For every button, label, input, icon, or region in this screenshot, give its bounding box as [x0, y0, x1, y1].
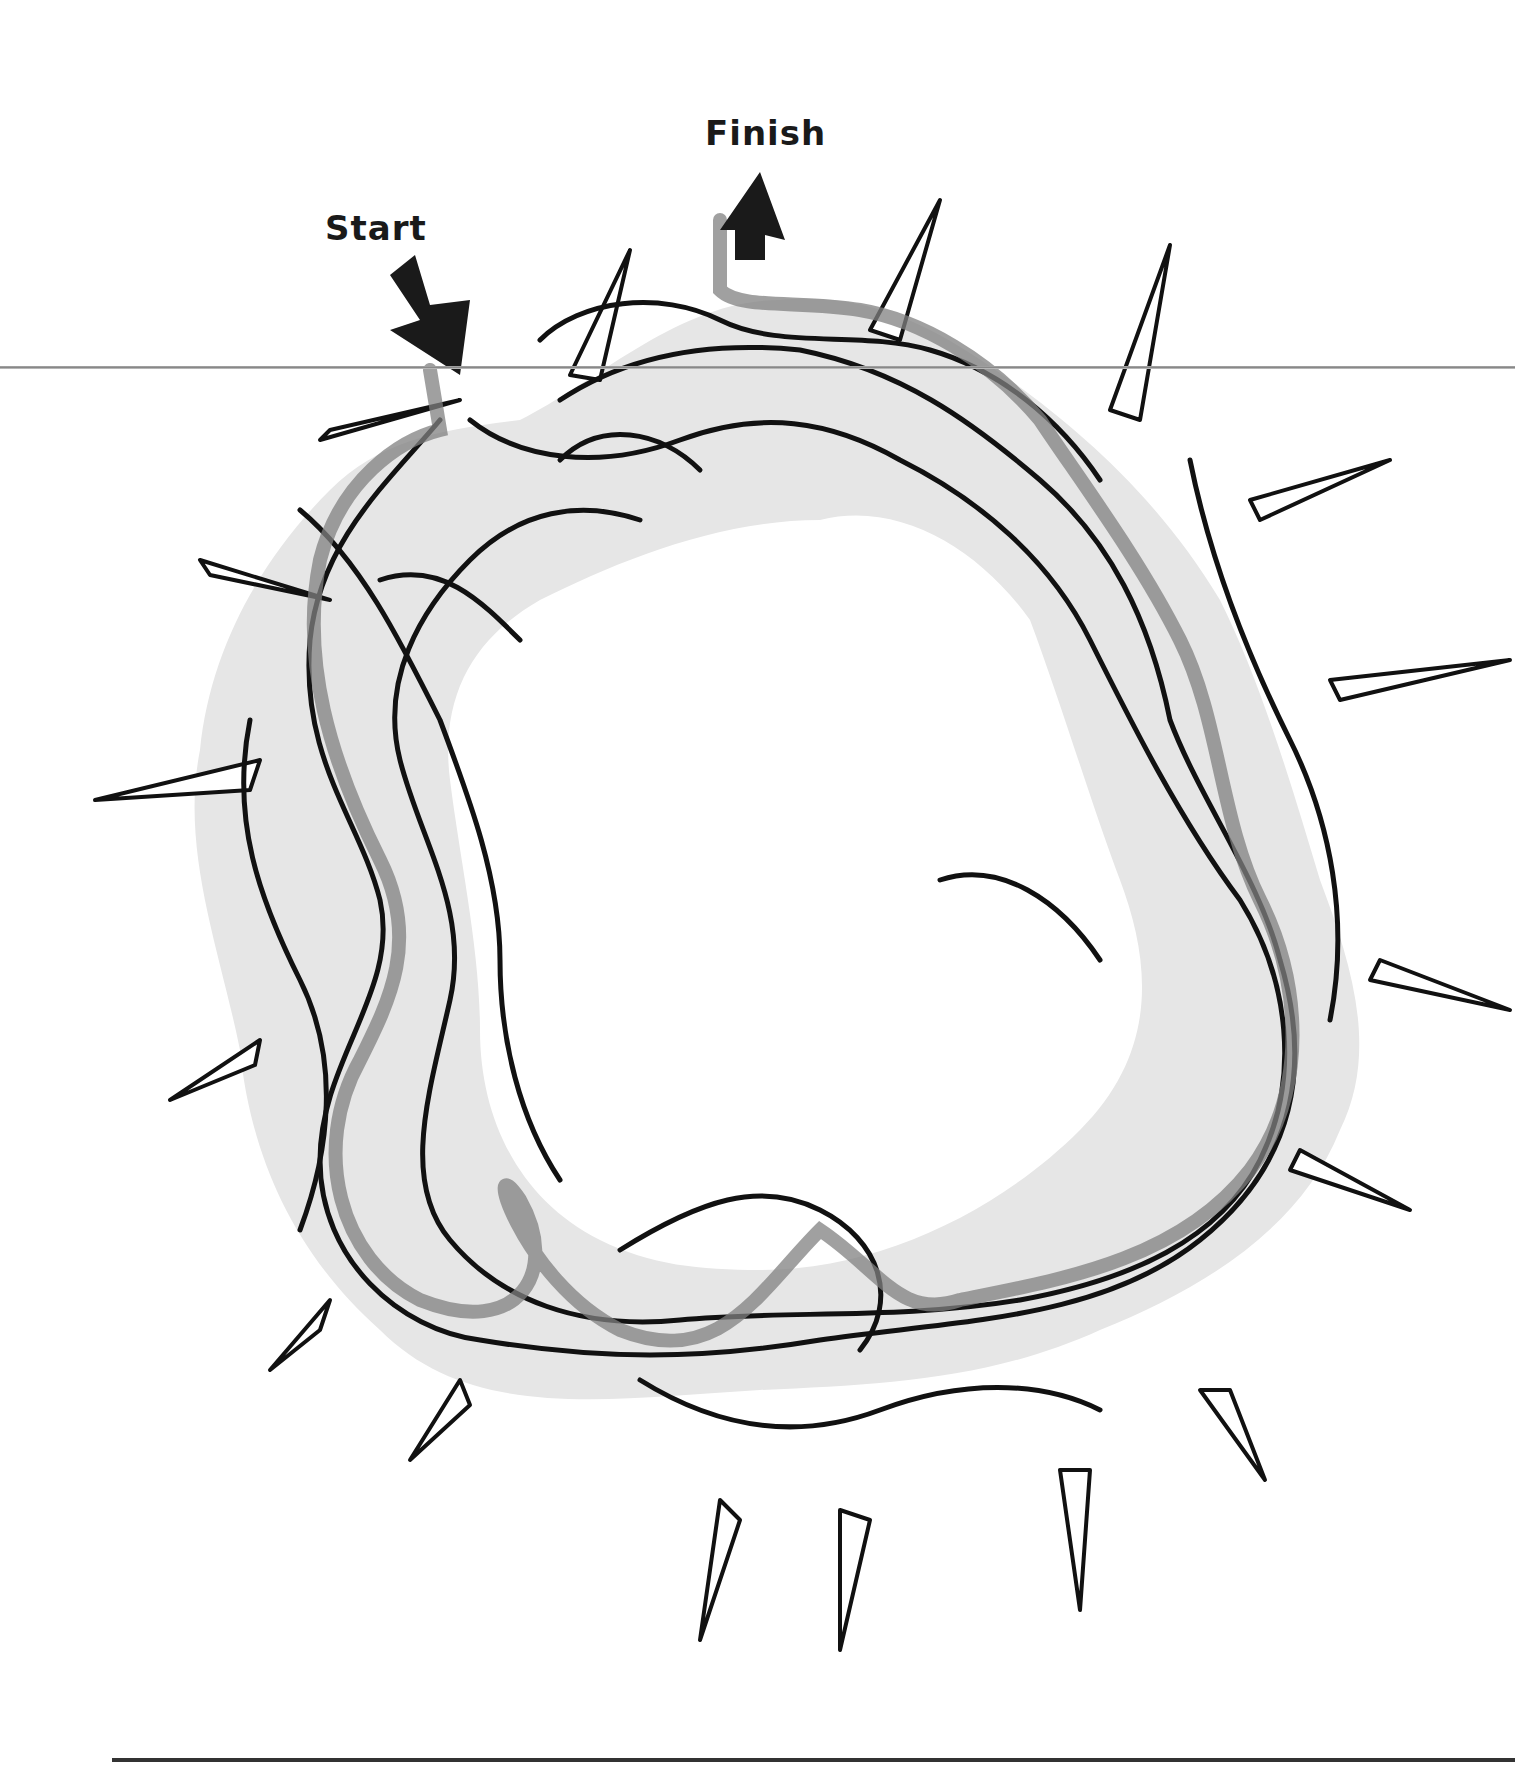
arrow-down-right-icon	[390, 255, 470, 375]
bottom-divider-line	[112, 1758, 1515, 1762]
arrow-up-icon	[720, 172, 785, 260]
crown-of-thorns-maze	[0, 0, 1515, 1784]
top-divider-line	[0, 366, 1515, 369]
